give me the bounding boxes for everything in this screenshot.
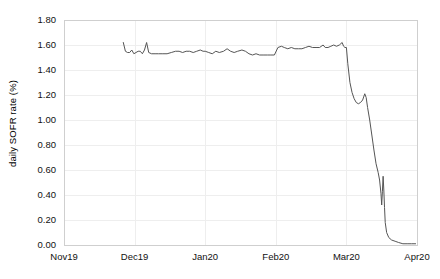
horizontal-gridlines: [64, 21, 417, 246]
sofr-rate-chart: daily SOFR rate (%) 0.000.200.400.600.80…: [0, 0, 440, 279]
plot-area: [0, 0, 440, 279]
plot-frame: [65, 21, 418, 246]
data-line-daily-sofr-rate: [123, 43, 415, 244]
